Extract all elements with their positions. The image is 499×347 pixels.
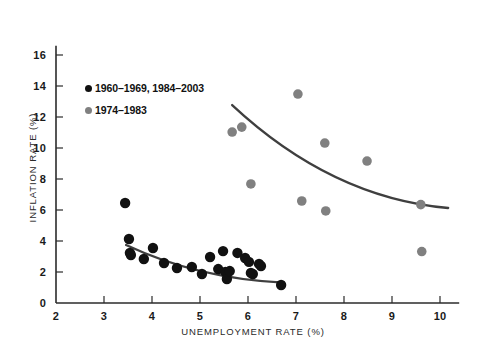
data-point: [416, 200, 426, 210]
data-point: [256, 261, 266, 271]
data-point: [218, 246, 228, 256]
data-point: [187, 262, 197, 272]
data-points: [120, 89, 427, 290]
data-point: [227, 127, 237, 137]
y-tick-label: 4: [0, 235, 46, 247]
trend-line-series-1: [232, 105, 448, 208]
data-point: [205, 252, 215, 262]
y-tick-label: 8: [0, 173, 46, 185]
x-tick-label: 7: [293, 310, 299, 322]
y-tick-label: 10: [0, 142, 46, 154]
x-tick-label: 10: [434, 310, 447, 322]
legend-item-1: 1974–1983: [85, 104, 147, 116]
data-point: [225, 266, 235, 276]
x-tick-label: 5: [197, 310, 203, 322]
x-tick-label: 4: [149, 310, 155, 322]
legend-label: 1960–1969, 1984–2003: [95, 82, 204, 94]
y-tick-label: 16: [0, 49, 46, 61]
x-tick-label: 6: [245, 310, 251, 322]
data-point: [417, 247, 427, 257]
data-point: [362, 156, 372, 166]
legend-marker-icon: [85, 85, 92, 92]
data-point: [321, 206, 331, 216]
data-point: [120, 198, 130, 208]
data-point: [244, 257, 254, 267]
data-point: [293, 89, 303, 99]
data-point: [139, 254, 149, 264]
x-tick-label: 8: [341, 310, 347, 322]
data-point: [248, 269, 258, 279]
x-tick-label: 9: [389, 310, 395, 322]
legend-item-0: 1960–1969, 1984–2003: [85, 82, 204, 94]
x-tick-label: 2: [53, 310, 59, 322]
x-tick-label: 3: [101, 310, 107, 322]
data-point: [159, 258, 169, 268]
data-point: [148, 243, 158, 253]
data-point: [197, 269, 207, 279]
data-point: [246, 179, 256, 189]
trend-lines: [126, 105, 448, 282]
plot-area: [0, 0, 499, 347]
y-tick-label: 6: [0, 204, 46, 216]
y-tick-label: 2: [0, 266, 46, 278]
x-axis-title: UNEMPLOYMENT RATE (%): [56, 326, 450, 337]
data-point: [172, 263, 182, 273]
data-point: [126, 250, 136, 260]
scatter-chart: 0246810121416 2345678910 INFLATION RATE …: [0, 0, 499, 347]
data-point: [237, 122, 247, 132]
legend-marker-icon: [85, 107, 92, 114]
data-point: [320, 138, 330, 148]
data-point: [276, 280, 286, 290]
y-tick-label: 12: [0, 111, 46, 123]
y-tick-label: 14: [0, 80, 46, 92]
data-point: [124, 234, 134, 244]
y-axis-title: INFLATION RATE (%): [27, 88, 38, 248]
y-tick-label: 0: [0, 297, 46, 309]
legend-label: 1974–1983: [95, 104, 147, 116]
data-point: [297, 196, 307, 206]
